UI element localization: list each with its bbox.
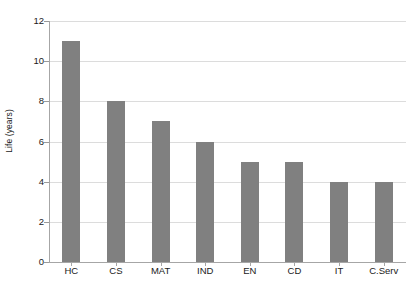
x-axis-tick-mark: [384, 262, 385, 266]
y-axis-title-label: Life (years): [4, 109, 14, 153]
x-axis-tick-label: HC: [64, 266, 78, 276]
y-axis-tick-mark: [44, 101, 49, 102]
y-axis-tick-mark: [44, 61, 49, 62]
bar: [241, 162, 259, 262]
bar: [152, 121, 170, 262]
y-axis-title: Life (years): [0, 0, 18, 262]
x-axis-tick-mark: [116, 262, 117, 266]
x-axis-tick-label: MAT: [151, 266, 170, 276]
y-axis-tick-label: 8: [22, 97, 44, 107]
bar: [196, 142, 214, 263]
y-axis-tick-label: 2: [22, 217, 44, 227]
y-axis-tick-mark: [44, 142, 49, 143]
y-axis-tick-mark: [44, 182, 49, 183]
x-axis-tick-mark: [161, 262, 162, 266]
x-axis-tick-mark: [205, 262, 206, 266]
x-axis-tick-mark: [294, 262, 295, 266]
x-axis-tick-mark: [71, 262, 72, 266]
x-axis-tick-label: IT: [335, 266, 343, 276]
y-axis-tick-labels: 024681012: [18, 0, 44, 292]
bar: [285, 162, 303, 262]
bar: [107, 101, 125, 262]
y-axis-tick-mark: [44, 262, 49, 263]
x-axis-tick-label: CD: [288, 266, 302, 276]
y-axis-tick-mark: [44, 222, 49, 223]
bar-series: [49, 21, 406, 262]
x-axis-line: [49, 262, 406, 263]
x-axis-tick-labels: HCCSMATINDENCDITC.Serv: [49, 266, 406, 286]
y-axis-tick-mark: [44, 21, 49, 22]
bar-chart: Life (years) 024681012 HCCSMATINDENCDITC…: [0, 0, 406, 292]
x-axis-tick-label: CS: [109, 266, 122, 276]
x-axis-tick-mark: [250, 262, 251, 266]
y-axis-tick-label: 10: [22, 56, 44, 66]
bar: [62, 41, 80, 262]
y-axis-tick-label: 0: [22, 257, 44, 267]
x-axis-tick-label: C.Serv: [369, 266, 398, 276]
bar: [330, 182, 348, 262]
x-axis-tick-mark: [339, 262, 340, 266]
bar: [375, 182, 393, 262]
x-axis-tick-label: EN: [243, 266, 256, 276]
y-axis-tick-label: 6: [22, 137, 44, 147]
y-axis-tick-label: 12: [22, 16, 44, 26]
x-axis-tick-label: IND: [197, 266, 213, 276]
y-axis-tick-label: 4: [22, 177, 44, 187]
